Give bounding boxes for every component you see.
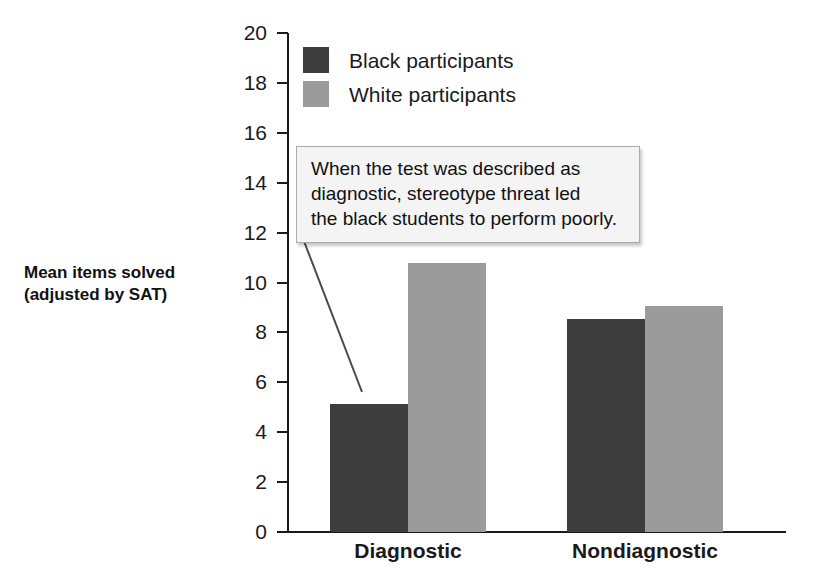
bar-diagnostic-black — [330, 404, 408, 532]
y-axis-title-line-1: Mean items solved — [24, 262, 214, 284]
bar-nondiagnostic-white — [645, 306, 723, 532]
annotation-line-3: the black students to perform poorly. — [311, 206, 627, 231]
y-axis-tick — [277, 82, 288, 84]
x-axis-label-diagnostic: Diagnostic — [288, 540, 528, 561]
y-axis-tick-label: 2 — [207, 471, 267, 492]
y-axis-tick-label: 8 — [207, 321, 267, 342]
y-axis-tick-label: 4 — [207, 421, 267, 442]
annotation-callout: When the test was described as diagnosti… — [296, 146, 640, 243]
y-axis-tick — [277, 431, 288, 433]
y-axis-title-line-2: (adjusted by SAT) — [24, 284, 214, 306]
y-axis-title: Mean items solved (adjusted by SAT) — [24, 262, 214, 307]
y-axis-tick-label: 6 — [207, 371, 267, 392]
y-axis-tick — [277, 381, 288, 383]
legend: Black participants White participants — [303, 43, 516, 111]
legend-label-white: White participants — [349, 84, 516, 105]
y-axis-tick-label: 0 — [207, 521, 267, 542]
y-axis-tick — [277, 282, 288, 284]
y-axis-tick-label: 10 — [207, 272, 267, 293]
y-axis-tick — [277, 132, 288, 134]
y-axis-tick — [277, 32, 288, 34]
bar-diagnostic-white — [408, 263, 486, 532]
legend-item-black: Black participants — [303, 43, 516, 77]
y-axis-tick-label: 20 — [207, 22, 267, 43]
y-axis-tick-label: 18 — [207, 72, 267, 93]
y-axis-tick — [277, 531, 288, 533]
y-axis-tick-label: 12 — [207, 222, 267, 243]
legend-label-black: Black participants — [349, 50, 514, 71]
annotation-line-1: When the test was described as — [311, 156, 627, 181]
y-axis-tick — [277, 481, 288, 483]
x-axis-label-nondiagnostic: Nondiagnostic — [525, 540, 765, 561]
legend-item-white: White participants — [303, 77, 516, 111]
annotation-line-2: diagnostic, stereotype threat led — [311, 181, 627, 206]
y-axis-tick-label: 14 — [207, 172, 267, 193]
legend-swatch-icon-white — [303, 81, 329, 107]
chart-figure: Mean items solved (adjusted by SAT) 2018… — [0, 0, 825, 573]
y-axis-tick — [277, 331, 288, 333]
y-axis-tick — [277, 182, 288, 184]
y-axis-tick-label: 16 — [207, 122, 267, 143]
legend-swatch-icon-black — [303, 47, 329, 73]
bar-nondiagnostic-black — [567, 319, 645, 532]
y-axis-tick — [277, 232, 288, 234]
